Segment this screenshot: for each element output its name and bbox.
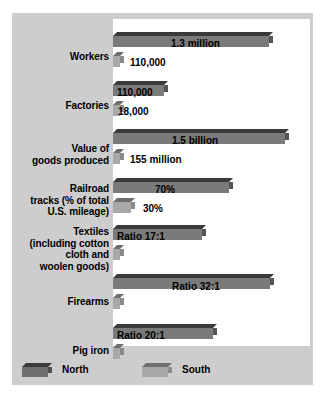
category-label-pig-iron: Pig iron	[0, 345, 109, 357]
bar-front-face	[113, 298, 120, 309]
category-label-line: cloth and	[0, 249, 109, 261]
bar-value-south-value-of-goods: 155 million	[130, 154, 182, 166]
bar-front-face	[113, 153, 120, 164]
category-label-text: Workers	[70, 51, 109, 62]
legend-label-south: South	[182, 364, 210, 375]
bar-side-face	[202, 229, 206, 236]
bar-value-south-factories: 18,000	[118, 106, 149, 118]
bar-side-face	[285, 133, 289, 140]
category-label-line: U.S. mileage)	[0, 206, 109, 218]
bar-side-face	[213, 328, 217, 335]
bar-value-south-workers: 110,000	[130, 57, 166, 69]
bar-side-face	[229, 182, 233, 189]
category-label-line: Value of	[0, 143, 109, 155]
chart-frame: Workers 1.3 million 110,000 Factories 11…	[12, 13, 313, 385]
bar-front-face	[113, 249, 120, 260]
bar-side-face	[120, 298, 124, 305]
category-label-firearms: Firearms	[0, 296, 109, 308]
bar-south-textiles	[113, 245, 124, 260]
bar-value-north-pig-iron: Ratio 20:1	[117, 330, 165, 342]
category-label-text: Firearms	[68, 296, 109, 307]
swatch-front-face	[142, 367, 168, 377]
swatch-side-face	[168, 367, 172, 373]
bar-value-north-workers: 1.3 million	[171, 38, 220, 50]
bar-side-face	[270, 278, 274, 285]
category-label-text: Factories	[65, 100, 109, 111]
category-label-text: Pig iron	[73, 345, 109, 356]
category-label-factories: Factories	[0, 100, 109, 112]
bar-side-face	[120, 249, 124, 256]
legend-label-north: North	[62, 364, 89, 375]
category-label-line: tracks (% of total	[0, 195, 109, 207]
bar-south-firearms	[113, 294, 124, 309]
bar-front-face	[113, 202, 131, 213]
bar-side-face	[120, 56, 124, 63]
bar-value-north-factories: 110,000	[117, 87, 153, 99]
legend-swatch-south	[142, 363, 172, 377]
bar-value-south-railroad-tracks: 30%	[143, 203, 163, 215]
category-label-line: woolen goods)	[0, 261, 109, 273]
swatch-front-face	[22, 367, 48, 377]
bar-south-railroad-tracks	[113, 198, 135, 213]
category-label-line: goods produced	[0, 155, 109, 167]
bar-south-workers	[113, 52, 124, 67]
category-label-workers: Workers	[0, 51, 109, 63]
category-label-line: (including cotton	[0, 238, 109, 250]
category-label-textiles: Textiles (including cotton cloth and woo…	[0, 226, 109, 272]
bar-side-face	[269, 36, 273, 43]
bar-side-face	[120, 348, 124, 355]
bar-side-face	[131, 202, 135, 209]
category-label-line: Textiles	[0, 226, 109, 238]
bar-value-north-textiles: Ratio 17:1	[117, 231, 165, 243]
bar-front-face	[113, 56, 120, 67]
bar-value-north-firearms: Ratio 32:1	[172, 281, 220, 293]
swatch-side-face	[48, 367, 52, 373]
bar-value-north-railroad-tracks: 70%	[155, 184, 175, 196]
bar-value-north-value-of-goods: 1.5 billion	[172, 135, 218, 147]
bar-side-face	[120, 153, 124, 160]
category-label-line: Railroad	[0, 183, 109, 195]
chart-legend: North South	[12, 356, 313, 385]
bar-south-value-of-goods	[113, 149, 124, 164]
category-label-railroad-tracks: Railroad tracks (% of total U.S. mileage…	[0, 183, 109, 218]
category-label-value-of-goods: Value of goods produced	[0, 143, 109, 166]
legend-swatch-north	[22, 363, 52, 377]
bar-side-face	[164, 85, 168, 92]
